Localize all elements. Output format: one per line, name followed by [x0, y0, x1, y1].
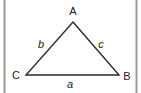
vertex-label-a: A: [69, 5, 77, 17]
side-label-a: a: [67, 78, 73, 90]
side-label-c: c: [98, 38, 104, 50]
triangle-diagram: A C B b c a: [0, 0, 141, 93]
vertex-label-c: C: [12, 69, 20, 81]
diagram-frame: A C B b c a: [0, 0, 141, 93]
vertex-label-b: B: [123, 70, 130, 82]
side-label-b: b: [38, 38, 44, 50]
